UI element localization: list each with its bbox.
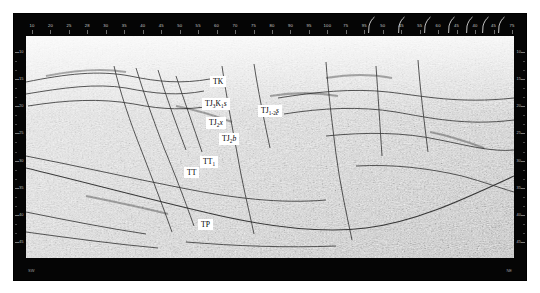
time-scale-minor-tick	[523, 170, 525, 171]
time-scale-minor-tick	[15, 161, 17, 162]
time-scale-minor-tick	[15, 52, 17, 53]
time-scale-minor-tick	[15, 106, 17, 107]
ruler-tick-label: 10	[29, 23, 34, 28]
ruler-tick-label: 100	[324, 23, 332, 28]
time-scale-minor-tick	[15, 197, 17, 198]
ruler-tick-label: 28	[85, 23, 90, 28]
time-scale-minor-tick	[15, 133, 17, 134]
line-crossing-marker	[446, 16, 456, 34]
time-scale-minor-tick	[15, 97, 17, 98]
time-scale-minor-tick	[523, 142, 525, 143]
ruler-tick-label: 20	[48, 23, 53, 28]
ruler-tick-mark	[512, 30, 513, 34]
ruler-tick-label: 30	[103, 23, 108, 28]
line-crossing-marker	[366, 16, 376, 34]
horizon-label-TT: TT	[184, 167, 199, 178]
ruler-tick-label: 75	[343, 23, 348, 28]
ruler-tick-label: 90	[288, 23, 293, 28]
time-scale-label: 10	[517, 50, 521, 54]
time-scale-minor-tick	[523, 124, 525, 125]
ruler-tick-mark	[143, 30, 144, 34]
ruler-tick-mark	[383, 30, 384, 34]
bottom-band: SW NE	[14, 258, 526, 280]
corner-note-right: NE	[506, 268, 512, 273]
corner-note-left: SW	[28, 268, 34, 273]
ruler-tick-label: 25	[66, 23, 71, 28]
time-scale-minor-tick	[523, 152, 525, 153]
time-scale-label: 30	[19, 159, 23, 163]
time-scale-minor-tick	[523, 97, 525, 98]
time-scale-minor-tick	[15, 179, 17, 180]
time-scale-minor-tick	[15, 152, 17, 153]
time-scale-minor-tick	[523, 197, 525, 198]
ruler-tick-label: 75	[509, 23, 514, 28]
time-scale-minor-tick	[523, 242, 525, 243]
ruler-tick-mark	[235, 30, 236, 34]
seismic-texture	[26, 36, 514, 258]
ruler-tick-label: 50	[380, 23, 385, 28]
time-scale-minor-tick	[15, 88, 17, 89]
time-scale-minor-tick	[15, 61, 17, 62]
ruler-tick-mark	[420, 30, 421, 34]
time-scale-minor-tick	[523, 70, 525, 71]
ruler-tick-mark	[290, 30, 291, 34]
horizon-label-TP: TP	[198, 219, 213, 230]
ruler-tick-label: 80	[269, 23, 274, 28]
time-scale-minor-tick	[15, 206, 17, 207]
time-scale-label: 10	[19, 50, 23, 54]
ruler-tick-label: 60	[436, 23, 441, 28]
time-scale-label: 30	[517, 159, 521, 163]
ruler-tick-label: 60	[214, 23, 219, 28]
time-scale-minor-tick	[15, 215, 17, 216]
line-crossing-marker	[480, 16, 490, 34]
horizon-label-TJ2b: TJ2b	[219, 133, 239, 145]
ruler-tick-mark	[50, 30, 51, 34]
ruler-tick-label: 55	[196, 23, 201, 28]
time-scale-minor-tick	[15, 70, 17, 71]
time-scale-minor-tick	[523, 106, 525, 107]
time-scale-minor-tick	[523, 233, 525, 234]
ruler-tick-mark	[106, 30, 107, 34]
ruler-tick-mark	[475, 30, 476, 34]
line-crossing-marker	[396, 16, 406, 34]
time-scale-label: 45	[517, 240, 521, 244]
line-crossing-marker	[464, 16, 474, 34]
horizon-label-TJ1-2f: TJ1-2ʂ	[258, 105, 282, 117]
time-scale-minor-tick	[523, 206, 525, 207]
ruler-tick-label: 75	[251, 23, 256, 28]
time-scale-label: 20	[517, 104, 521, 108]
time-scale-minor-tick	[523, 215, 525, 216]
ruler-tick-mark	[494, 30, 495, 34]
ruler-tick-label: 45	[159, 23, 164, 28]
time-scale-minor-tick	[523, 161, 525, 162]
vertical-scale-right: 1015202530354045	[514, 36, 526, 258]
time-scale-label: 35	[19, 186, 23, 190]
time-scale-minor-tick	[15, 242, 17, 243]
ruler-tick-mark	[254, 30, 255, 34]
ruler-tick-label: 35	[122, 23, 127, 28]
ruler-tick-label: 40	[140, 23, 145, 28]
time-scale-label: 40	[517, 213, 521, 217]
ruler-tick-mark	[180, 30, 181, 34]
ruler-tick-mark	[438, 30, 439, 34]
time-scale-label: 25	[19, 131, 23, 135]
ruler-tick-mark	[161, 30, 162, 34]
time-scale-minor-tick	[15, 115, 17, 116]
horizon-label-TJ3K1s: TJ3K1s	[202, 98, 230, 110]
ruler-tick-label: 95	[306, 23, 311, 28]
time-scale-minor-tick	[15, 188, 17, 189]
seismic-data-panel: TK TJ3K1s TJ2x TJ2b TJ1-2ʂ TT1 TT TP	[26, 36, 514, 258]
time-scale-label: 45	[19, 240, 23, 244]
seismic-figure: 1020252830354045505560707580909510075955…	[0, 0, 540, 293]
ruler-tick-mark	[69, 30, 70, 34]
line-crossing-marker	[496, 16, 506, 34]
time-scale-label: 40	[19, 213, 23, 217]
time-scale-minor-tick	[523, 133, 525, 134]
time-scale-label: 15	[19, 77, 23, 81]
time-scale-minor-tick	[523, 88, 525, 89]
time-scale-minor-tick	[15, 142, 17, 143]
horizon-label-TK: TK	[210, 76, 226, 87]
line-crossing-marker	[422, 16, 432, 34]
ruler-tick-mark	[198, 30, 199, 34]
time-scale-minor-tick	[15, 170, 17, 171]
